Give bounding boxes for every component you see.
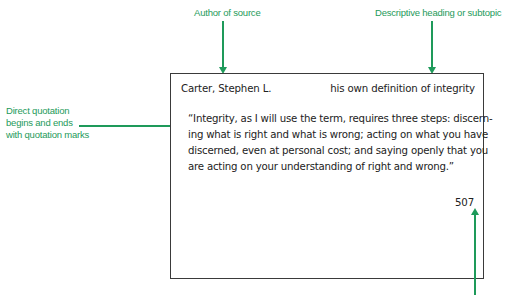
card-quotation: “Integrity, as I will use the term, requ… <box>188 111 473 175</box>
card-author: Carter, Stephen L. <box>181 83 271 94</box>
quotation-arrow-line <box>79 125 175 127</box>
page-arrow-line <box>474 215 476 295</box>
page-arrow-head-icon <box>471 208 479 215</box>
card-page-number: 507 <box>455 197 474 208</box>
author-of-source-label: Author of source <box>194 7 261 19</box>
author-arrow-line <box>222 21 224 69</box>
note-card: Carter, Stephen L. his own definition of… <box>170 73 484 279</box>
descriptive-heading-label: Descriptive heading or subtopic <box>375 7 501 19</box>
direct-quotation-label: Direct quotation begins and ends with qu… <box>6 105 89 141</box>
heading-arrow-line <box>431 21 433 69</box>
card-heading: his own definition of integrity <box>330 83 475 94</box>
